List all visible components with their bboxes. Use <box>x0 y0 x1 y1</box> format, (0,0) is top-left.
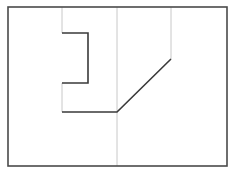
diagram-canvas <box>0 0 233 174</box>
